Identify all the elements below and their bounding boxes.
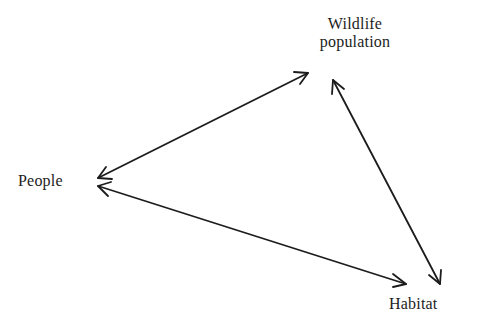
node-habitat: Habitat [389,295,459,313]
node-people: People [18,172,90,190]
edge-people-habitat [98,182,406,287]
node-habitat-label: Habitat [389,295,438,312]
edge-wildlife-habitat [332,80,441,284]
edge-wildlife-people [98,72,308,179]
node-people-label: People [18,172,63,189]
node-wildlife-label-line2: population [290,33,420,51]
node-wildlife-population: Wildlife population [290,15,420,51]
node-wildlife-label-line1: Wildlife [290,15,420,33]
diagram-canvas: Wildlife population People Habitat [0,0,486,331]
